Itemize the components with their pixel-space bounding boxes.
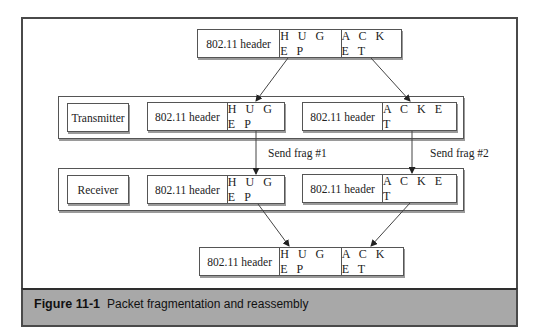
merge-arrow-2: [371, 203, 410, 246]
figure-caption: Figure 11-1 Packet fragmentation and rea…: [21, 288, 518, 327]
split-arrow-2: [371, 58, 410, 101]
figure-caption-text: Packet fragmentation and reassembly: [107, 297, 308, 311]
merge-arrow-1: [258, 204, 289, 246]
split-arrow-1: [256, 58, 288, 101]
figure-number: Figure 11-1: [34, 297, 100, 311]
connector-arrows: [0, 0, 541, 334]
